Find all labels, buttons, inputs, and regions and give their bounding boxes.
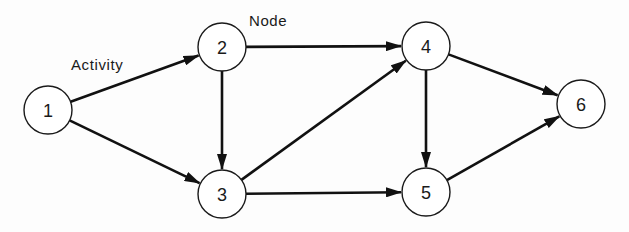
edge-5-6 — [447, 116, 559, 180]
edge-3-5 — [246, 192, 401, 194]
node-label: 6 — [576, 95, 586, 115]
node-label: 3 — [217, 185, 227, 205]
diagram-canvas: 123456 ActivityNode — [0, 0, 629, 232]
node-label: 5 — [421, 183, 431, 203]
activity-label: Activity — [71, 56, 123, 73]
edges-layer — [70, 46, 560, 194]
node-2: 2 — [198, 23, 246, 71]
node-label: 2 — [217, 38, 227, 58]
node-label: 1 — [43, 101, 53, 121]
node-3: 3 — [198, 170, 246, 218]
node-6: 6 — [557, 80, 605, 128]
network-diagram: 123456 ActivityNode — [0, 0, 629, 232]
edge-4-6 — [449, 54, 558, 95]
node-1: 1 — [24, 86, 72, 134]
edge-1-3 — [70, 120, 200, 183]
node-label: Node — [249, 12, 287, 29]
node-5: 5 — [402, 168, 450, 216]
edge-3-4 — [241, 61, 405, 180]
edge-2-4 — [246, 46, 401, 47]
nodes-layer: 123456 — [24, 22, 605, 218]
node-4: 4 — [402, 22, 450, 70]
node-label: 4 — [421, 37, 431, 57]
